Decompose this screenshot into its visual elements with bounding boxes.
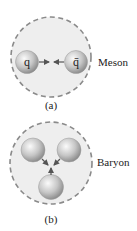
antiquark-ball: q̄ <box>65 51 88 74</box>
meson-label: Meson <box>98 56 128 68</box>
quark-ball: q <box>16 51 39 74</box>
baryon-diagram: Baryon (b) <box>10 122 130 226</box>
antiquark-label: q̄ <box>73 55 79 69</box>
meson-caption: (a) <box>45 99 58 112</box>
baryon-label: Baryon <box>97 156 130 168</box>
baryon-caption: (b) <box>45 213 58 226</box>
baryon-quark-ball-bottom <box>39 175 64 200</box>
hadron-diagram: q q̄ Meson (a) Baryon (b) <box>0 0 137 231</box>
quark-label: q <box>24 55 30 69</box>
baryon-quark-ball-right <box>57 138 81 162</box>
baryon-quark-ball-left <box>21 138 45 162</box>
meson-diagram: q q̄ Meson (a) <box>11 17 128 112</box>
